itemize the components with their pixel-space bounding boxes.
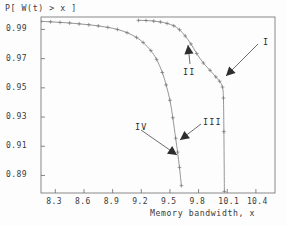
- series-group: [39, 18, 226, 193]
- data-point-marker: [58, 21, 62, 25]
- y-tick-label: 0.99: [6, 24, 27, 33]
- x-tick-label: 8.6: [75, 197, 91, 206]
- data-point-marker: [172, 24, 176, 28]
- arrowhead-icon: [180, 131, 190, 140]
- data-point-marker: [144, 19, 148, 23]
- data-point-marker: [164, 83, 168, 87]
- x-tick-label: 9.2: [132, 197, 148, 206]
- data-point-marker: [222, 96, 226, 100]
- data-curve: [41, 21, 181, 185]
- data-point-marker: [106, 25, 110, 29]
- annotation-label-i: I: [263, 37, 269, 47]
- data-point-marker: [174, 136, 178, 140]
- annotation-label-iv: IV: [135, 122, 147, 132]
- data-point-marker: [96, 24, 100, 28]
- data-point-marker: [77, 22, 81, 26]
- annotation-ii: [184, 45, 193, 64]
- annotation-label-iii: III: [203, 117, 222, 127]
- data-point-marker: [125, 31, 129, 35]
- x-tick-label: 9.5: [161, 197, 177, 206]
- data-curve: [138, 20, 224, 191]
- annotation-label-ii: II: [183, 67, 195, 77]
- data-point-marker: [137, 18, 141, 22]
- annotation-i: [226, 44, 258, 76]
- x-tick-label: 8.9: [104, 197, 120, 206]
- data-point-marker: [176, 150, 180, 154]
- data-point-marker: [49, 20, 53, 24]
- x-tick-label: 8.3: [46, 197, 62, 206]
- annotation-iii: [180, 124, 201, 140]
- y-tick-label: 0.91: [6, 141, 27, 150]
- plot-canvas: [0, 0, 287, 226]
- chart-figure: P[ W(t) > x ] Memory bandwidth, x 8.38.6…: [0, 0, 287, 226]
- x-tick-label: 10.1: [218, 197, 239, 206]
- data-point-marker: [39, 19, 43, 23]
- data-point-marker: [165, 22, 169, 26]
- x-tick-label: 10.4: [247, 197, 268, 206]
- data-point-marker: [155, 57, 159, 61]
- data-point-marker: [180, 184, 184, 188]
- data-point-marker: [222, 130, 226, 134]
- data-point-marker: [160, 71, 164, 75]
- data-point-marker: [168, 98, 172, 102]
- data-point-marker: [116, 28, 120, 32]
- plot-frame: [41, 17, 275, 193]
- data-point-marker: [171, 116, 175, 120]
- data-point-marker: [221, 85, 225, 89]
- annotation-iv: [141, 130, 177, 155]
- data-point-marker: [158, 20, 162, 24]
- y-tick-label: 0.89: [6, 170, 27, 179]
- y-tick-label: 0.95: [6, 83, 27, 92]
- data-point-marker: [87, 23, 91, 27]
- arrowhead-icon: [167, 146, 177, 155]
- y-tick-label: 0.97: [6, 54, 27, 63]
- data-point-marker: [68, 21, 72, 25]
- y-tick-label: 0.93: [6, 112, 27, 121]
- data-point-marker: [178, 166, 182, 170]
- data-point-marker: [152, 19, 156, 23]
- x-tick-label: 9.8: [190, 197, 206, 206]
